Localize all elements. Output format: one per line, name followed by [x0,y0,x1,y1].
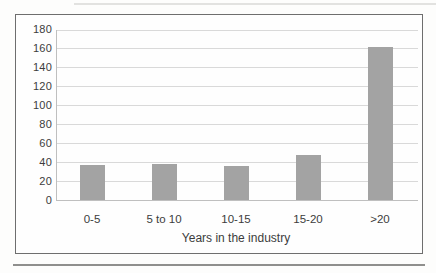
y-tick-label-140: 140 [18,62,52,73]
gridline-y-40 [56,162,418,163]
y-tick-label-20: 20 [18,176,52,187]
x-axis-line [56,200,418,201]
x-tick-label-15-20: 15-20 [272,213,344,226]
x-tick-label->20: >20 [344,213,416,226]
y-axis-line [56,30,57,201]
x-tick-label-0-5: 0-5 [56,213,128,226]
gridline-y-160 [56,48,418,49]
gridline-y-120 [56,86,418,87]
scanned-document-page: 020406080100120140160180 0-55 to 1010-15… [0,0,436,273]
y-tick-label-120: 120 [18,81,52,92]
bar-15-20 [296,155,321,200]
y-tick-label-60: 60 [18,138,52,149]
y-tick-label-160: 160 [18,43,52,54]
y-tick-label-80: 80 [18,119,52,130]
gridline-y-180 [56,30,418,31]
gridline-y-80 [56,124,418,125]
y-tick-label-100: 100 [18,100,52,111]
x-tick-label-10-15: 10-15 [200,213,272,226]
page-top-faint-rule [74,3,436,5]
bar-0-5 [80,165,105,200]
gridline-y-140 [56,67,418,68]
y-tick-label-40: 40 [18,157,52,168]
gridline-y-100 [56,105,418,106]
bar-5 to 10 [152,164,177,200]
bar-chart: 020406080100120140160180 0-55 to 1010-15… [15,14,423,254]
gridline-y-60 [56,143,418,144]
y-tick-label-0: 0 [18,195,52,206]
bar->20 [368,47,393,200]
y-tick-label-180: 180 [18,24,52,35]
bar-10-15 [224,166,249,200]
bottom-horizontal-rule [13,264,425,266]
x-tick-label-5 to 10: 5 to 10 [128,213,200,226]
x-axis-title: Years in the industry [56,231,416,245]
